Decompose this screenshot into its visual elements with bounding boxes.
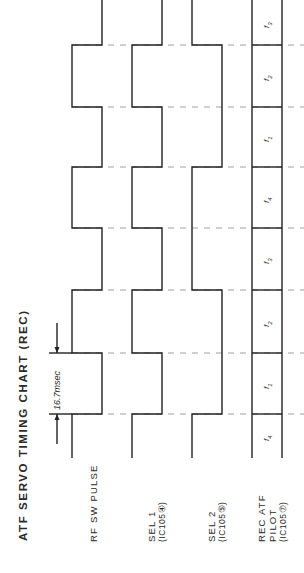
pilot-line1: REC ATF [256,494,267,542]
waveform-sel1 [132,0,162,458]
pilot-pin: (IC105⑦) [278,494,289,542]
sel2-name: SEL 2 [206,502,217,542]
pilot-band-label: f4 [262,197,273,203]
signal-label-sel2: SEL 2 (IC105⑤) [206,502,228,542]
sel1-name: SEL 1 [146,502,157,542]
pilot-band-label: f2 [262,321,273,327]
pilot-band-label: f2 [262,75,273,81]
signal-label-rf-sw-pulse: RF SW PULSE [88,464,99,542]
waveform-sel2 [192,0,222,458]
pilot-band-label: f1 [262,136,273,142]
timing-diagram [0,0,304,573]
signal-label-sel1: SEL 1 (IC105④) [146,502,168,542]
pilot-band-label: f4 [262,435,273,441]
timing-chart: ATF SERVO TIMING CHART (REC) RF SW PULSE… [0,0,304,573]
chart-title: ATF SERVO TIMING CHART (REC) [17,309,29,541]
pilot-line2: PILOT [267,494,278,542]
sel2-pin: (IC105⑤) [217,502,228,542]
signal-label-rec-atf-pilot: REC ATF PILOT (IC105⑦) [256,494,289,542]
dimension-arrowhead-icon [55,347,60,353]
pilot-band-label: f3 [262,258,273,264]
pilot-band-label: f3 [262,22,273,28]
waveform-rf-sw-pulse [72,0,102,458]
pilot-band-label: f1 [262,383,273,389]
sel1-pin: (IC105④) [157,502,168,542]
dimension-label: 16.7msec [52,371,62,410]
dimension-arrowhead-icon [55,414,60,420]
